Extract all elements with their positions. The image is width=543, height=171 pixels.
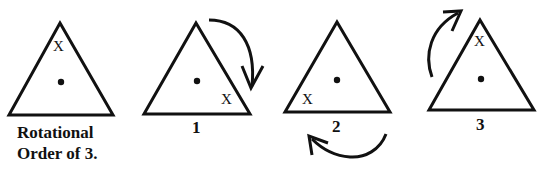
caption-line-1: Rotational (17, 123, 94, 143)
marker-x-3: X (474, 33, 485, 50)
clockwise-arrow-2 (312, 134, 386, 157)
triangle-1 (144, 20, 263, 114)
marker-x-2: X (302, 91, 313, 108)
marker-x-original: X (53, 38, 64, 55)
center-dot (58, 79, 64, 85)
triangle-3 (429, 11, 534, 110)
label-1: 1 (192, 118, 201, 138)
label-2: 2 (332, 117, 341, 137)
caption-line-2: Order of 3. (17, 144, 97, 164)
marker-x-1: X (221, 91, 232, 108)
label-3: 3 (476, 115, 485, 135)
triangle-original (9, 23, 113, 115)
